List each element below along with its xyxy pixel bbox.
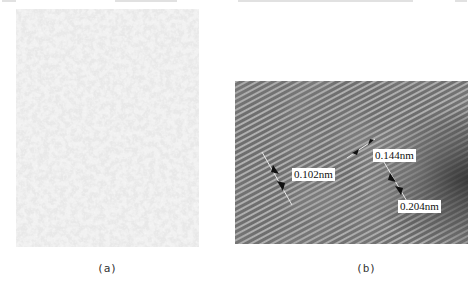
- caption-a: (a): [87, 262, 127, 275]
- mottled-texture: [16, 9, 199, 247]
- measurement-label-0-204: 0.204nm: [398, 200, 441, 213]
- measurement-label-0-102: 0.102nm: [292, 168, 335, 181]
- lattice-fringe-panel-b: 0.102nm 0.144nm 0.204nm: [235, 81, 468, 244]
- cropped-text-fragment: [115, 0, 177, 2]
- cropped-text-fragment: [238, 0, 413, 2]
- measurement-label-0-144: 0.144nm: [373, 149, 416, 162]
- micrograph-panel-a: [16, 9, 199, 247]
- caption-b: (b): [346, 262, 386, 275]
- cropped-text-fragment: [2, 0, 16, 2]
- cropped-text-fragment: [455, 0, 467, 2]
- lattice-fringes: [235, 81, 468, 244]
